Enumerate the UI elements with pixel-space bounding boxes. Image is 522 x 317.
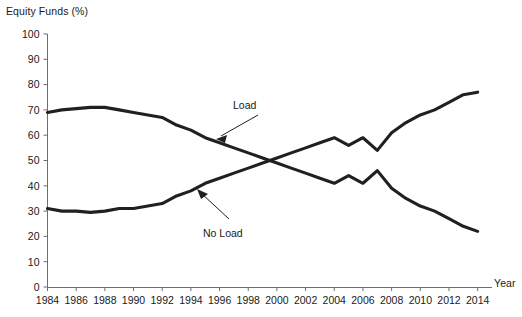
x-tick-label: 2006	[351, 294, 375, 306]
y-tick-label: 90	[28, 53, 40, 65]
x-tick-label: 1992	[151, 294, 175, 306]
y-axis-tick-marks	[44, 34, 48, 287]
x-tick-label: 2008	[380, 294, 404, 306]
annotation-no-load: No Load	[197, 189, 243, 239]
annotation-no-load-leader	[201, 193, 229, 219]
y-tick-label: 10	[28, 256, 40, 268]
x-tick-label: 2000	[265, 294, 289, 306]
plot-area: 0102030405060708090100 19841986198819901…	[0, 0, 522, 317]
x-tick-label: 1996	[208, 294, 232, 306]
annotation-no-load-label: No Load	[203, 227, 243, 239]
y-tick-label: 0	[34, 281, 40, 293]
y-tick-label: 20	[28, 230, 40, 242]
x-tick-label: 2004	[323, 294, 347, 306]
x-axis-tick-labels: 1984198619881990199219941996199820002002…	[36, 294, 490, 306]
x-tick-label: 1998	[237, 294, 261, 306]
y-tick-label: 80	[28, 78, 40, 90]
y-tick-label: 70	[28, 104, 40, 116]
annotation-load: Load	[216, 99, 258, 143]
annotation-load-label: Load	[233, 99, 257, 111]
annotation-load-leader	[221, 115, 258, 136]
y-axis-tick-labels: 0102030405060708090100	[22, 28, 40, 293]
x-tick-label: 1990	[122, 294, 146, 306]
y-tick-label: 30	[28, 205, 40, 217]
x-tick-label: 1984	[36, 294, 60, 306]
y-tick-label: 60	[28, 129, 40, 141]
x-tick-label: 1994	[179, 294, 203, 306]
y-tick-label: 50	[28, 154, 40, 166]
x-tick-label: 2012	[437, 294, 461, 306]
y-tick-label: 40	[28, 180, 40, 192]
x-tick-label: 2010	[409, 294, 433, 306]
y-tick-label: 100	[22, 28, 40, 40]
equity-funds-line-chart: Equity Funds (%) Year 010203040506070809…	[0, 0, 522, 317]
series-line-load	[48, 107, 478, 231]
x-tick-label: 1986	[64, 294, 88, 306]
x-tick-label: 1988	[93, 294, 117, 306]
x-tick-label: 2014	[466, 294, 490, 306]
series-line-no-load	[48, 92, 478, 212]
x-tick-label: 2002	[294, 294, 318, 306]
